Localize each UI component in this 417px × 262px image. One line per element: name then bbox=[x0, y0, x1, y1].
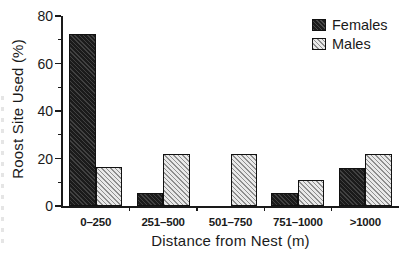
y-tick-label: 0 bbox=[45, 198, 53, 214]
x-axis-line bbox=[61, 206, 399, 208]
x-tick-label: 251–500 bbox=[141, 216, 184, 228]
chart-legend: Females Males bbox=[312, 17, 388, 52]
x-tick-label: 751–1000 bbox=[273, 216, 323, 228]
x-tick bbox=[196, 206, 198, 211]
y-tick-label: 20 bbox=[37, 151, 53, 167]
bar-females-1 bbox=[137, 193, 164, 206]
x-tick-label: >1000 bbox=[350, 216, 381, 228]
y-axis-line bbox=[61, 16, 63, 206]
y-tick-minor bbox=[58, 39, 61, 40]
x-axis-title: Distance from Nest (m) bbox=[62, 232, 399, 249]
legend-item-males: Males bbox=[312, 36, 388, 52]
y-tick-minor bbox=[58, 87, 61, 88]
x-tick-label: 0–250 bbox=[80, 216, 111, 228]
legend-label-females: Females bbox=[332, 17, 388, 33]
y-tick-major bbox=[55, 205, 61, 207]
legend-item-females: Females bbox=[312, 17, 388, 33]
legend-swatch-females-icon bbox=[312, 19, 326, 31]
legend-swatch-males-icon bbox=[312, 38, 326, 50]
x-tick bbox=[129, 206, 131, 211]
bar-males-2 bbox=[231, 154, 258, 206]
y-tick-label: 60 bbox=[37, 56, 53, 72]
y-axis-title: Roost Site Used (%) bbox=[4, 4, 30, 214]
y-tick-label: 40 bbox=[37, 103, 53, 119]
bar-males-4 bbox=[365, 154, 392, 206]
bar-females-3 bbox=[271, 193, 298, 206]
x-tick-label: 501–750 bbox=[209, 216, 252, 228]
y-tick-major bbox=[55, 15, 61, 17]
y-tick-major bbox=[55, 158, 61, 160]
bar-females-0 bbox=[69, 34, 96, 206]
roost-site-bar-chart: Roost Site Used (%) 020406080 0–250251–5… bbox=[0, 0, 417, 262]
x-tick bbox=[331, 206, 333, 211]
bar-males-3 bbox=[298, 180, 325, 206]
bar-females-4 bbox=[339, 168, 366, 206]
y-tick-major bbox=[55, 110, 61, 112]
x-tick bbox=[264, 206, 266, 211]
y-tick-major bbox=[55, 63, 61, 65]
y-tick-minor bbox=[58, 134, 61, 135]
y-tick-label: 80 bbox=[37, 8, 53, 24]
bar-males-0 bbox=[96, 167, 123, 206]
legend-label-males: Males bbox=[332, 36, 371, 52]
y-tick-minor bbox=[58, 182, 61, 183]
bar-males-1 bbox=[163, 154, 190, 206]
